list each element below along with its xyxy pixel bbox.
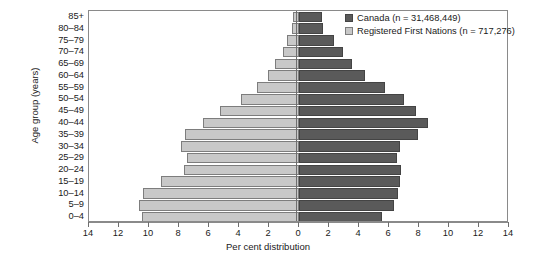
y-axis-tick-20-24: 20–24 — [18, 164, 84, 176]
x-axis-tick-label: 2 — [313, 228, 343, 238]
x-axis-tick-label: 10 — [433, 228, 463, 238]
legend-swatch-icon — [345, 14, 353, 22]
bar-canada — [299, 176, 400, 187]
bar-rfn — [241, 94, 300, 105]
x-axis-tick-mark — [268, 222, 269, 227]
pyramid-row — [89, 46, 507, 58]
pyramid-row — [89, 35, 507, 47]
x-axis-tick-mark — [508, 222, 509, 227]
x-axis-tick-mark — [388, 222, 389, 227]
y-axis-tick-75-79: 75–79 — [18, 35, 84, 47]
y-axis-tick-25-29: 25–29 — [18, 152, 84, 164]
bar-canada — [299, 94, 404, 105]
bar-canada — [299, 129, 418, 140]
bar-rfn — [187, 153, 300, 164]
x-axis-tick-mark — [298, 222, 299, 227]
bar-canada — [299, 82, 385, 93]
y-axis-tick-70-74: 70–74 — [18, 46, 84, 58]
bar-canada — [299, 12, 322, 23]
y-axis-tick-5-9: 5–9 — [18, 199, 84, 211]
pyramid-row — [89, 188, 507, 200]
pyramid-row — [89, 176, 507, 188]
x-axis-tick-label: 10 — [133, 228, 163, 238]
population-pyramid-chart: Age group (years) 85+80–8475–7970–7465–6… — [0, 0, 536, 269]
pyramid-row — [89, 105, 507, 117]
pyramid-row — [89, 199, 507, 211]
x-axis-tick-label: 6 — [193, 228, 223, 238]
y-axis-tick-85plus: 85+ — [18, 11, 84, 23]
legend-item-rfn[interactable]: Registered First Nations (n = 717,276) — [345, 26, 515, 36]
pyramid-row — [89, 211, 507, 222]
bar-canada — [299, 118, 428, 129]
x-axis-tick-mark — [238, 222, 239, 227]
bar-rfn — [161, 176, 299, 187]
legend-label: Canada (n = 31,468,449) — [357, 13, 461, 23]
bar-canada — [299, 165, 401, 176]
bar-rfn — [203, 118, 299, 129]
y-axis-tick-40-44: 40–44 — [18, 117, 84, 129]
bar-canada — [299, 106, 416, 117]
pyramid-row — [89, 152, 507, 164]
x-axis-tick-mark — [478, 222, 479, 227]
pyramid-row — [89, 70, 507, 82]
pyramid-row — [89, 141, 507, 153]
y-axis-tick-45-49: 45–49 — [18, 105, 84, 117]
y-axis-tick-80-84: 80–84 — [18, 23, 84, 35]
y-axis-tick-30-34: 30–34 — [18, 141, 84, 153]
bar-canada — [299, 23, 323, 34]
bar-rfn — [181, 141, 300, 152]
legend-swatch-icon — [345, 27, 353, 35]
x-axis-tick-label: 0 — [283, 228, 313, 238]
x-axis-tick-label: 8 — [403, 228, 433, 238]
x-axis-tick-label: 4 — [223, 228, 253, 238]
bar-canada — [299, 188, 398, 199]
bar-canada — [299, 47, 343, 58]
x-axis-tick-label: 6 — [373, 228, 403, 238]
bar-rfn — [139, 200, 300, 211]
x-axis-tick-label: 8 — [163, 228, 193, 238]
bar-rfn — [257, 82, 299, 93]
y-axis-tick-0-4: 0–4 — [18, 211, 84, 223]
bar-canada — [299, 153, 397, 164]
x-axis-tick-mark — [148, 222, 149, 227]
pyramid-row — [89, 58, 507, 70]
x-axis-tick-mark — [118, 222, 119, 227]
x-axis-tick-mark — [328, 222, 329, 227]
pyramid-row — [89, 82, 507, 94]
pyramid-row — [89, 164, 507, 176]
bar-rfn — [287, 35, 299, 46]
x-axis-tick-mark — [418, 222, 419, 227]
legend-label: Registered First Nations (n = 717,276) — [357, 26, 515, 36]
y-axis-tick-10-14: 10–14 — [18, 188, 84, 200]
y-axis-tick-50-54: 50–54 — [18, 93, 84, 105]
x-axis-tick-label: 4 — [343, 228, 373, 238]
legend-item-canada[interactable]: Canada (n = 31,468,449) — [345, 13, 515, 23]
plot-area — [88, 10, 508, 222]
x-axis-tick-mark — [178, 222, 179, 227]
x-axis-tick-label: 2 — [253, 228, 283, 238]
x-axis-tick-label: 12 — [463, 228, 493, 238]
bar-rfn — [142, 212, 300, 222]
y-axis-tick-35-39: 35–39 — [18, 129, 84, 141]
x-axis-tick-mark — [358, 222, 359, 227]
bar-rfn — [185, 129, 299, 140]
bar-rfn — [220, 106, 300, 117]
x-axis-tick-label: 14 — [73, 228, 103, 238]
y-axis-tick-15-19: 15–19 — [18, 176, 84, 188]
x-axis-tick-mark — [88, 222, 89, 227]
bar-canada — [299, 141, 400, 152]
x-axis-tick-mark — [448, 222, 449, 227]
y-axis-tick-55-59: 55–59 — [18, 82, 84, 94]
pyramid-row — [89, 117, 507, 129]
x-axis-title: Per cent distribution — [0, 241, 536, 252]
y-axis-tick-65-69: 65–69 — [18, 58, 84, 70]
pyramid-row — [89, 129, 507, 141]
y-axis-tick-60-64: 60–64 — [18, 70, 84, 82]
x-axis-tick-label: 14 — [493, 228, 523, 238]
bar-canada — [299, 200, 394, 211]
pyramid-row — [89, 93, 507, 105]
x-axis-tick-label: 12 — [103, 228, 133, 238]
bar-canada — [299, 59, 352, 70]
bar-rfn — [143, 188, 299, 199]
bar-canada — [299, 35, 334, 46]
